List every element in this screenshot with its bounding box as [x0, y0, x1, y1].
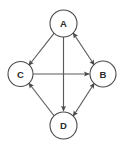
- node-b[interactable]: B: [90, 61, 116, 87]
- edge-d-to-b-bidirectional: [73, 83, 94, 116]
- graph-svg: A B C D: [0, 0, 121, 147]
- node-c[interactable]: C: [8, 62, 33, 87]
- node-a-label: A: [60, 18, 67, 29]
- node-d[interactable]: D: [50, 112, 77, 139]
- node-a[interactable]: A: [50, 10, 77, 37]
- edge-d-to-c: [29, 83, 55, 116]
- node-b-label: B: [100, 69, 107, 80]
- node-d-label: D: [60, 120, 67, 131]
- graph-diagram-canvas: A B C D: [0, 0, 121, 147]
- edge-a-to-c: [29, 33, 55, 65]
- node-c-label: C: [17, 69, 24, 80]
- edge-a-to-b-bidirectional: [73, 33, 94, 65]
- edge-layer: [29, 33, 95, 116]
